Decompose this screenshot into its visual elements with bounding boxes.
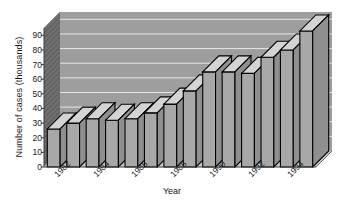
y-tick-label: 30 <box>20 119 42 127</box>
y-tick-label: 20 <box>20 134 42 142</box>
y-tick-label: 40 <box>20 104 42 112</box>
y-tick-label: 0 <box>20 163 42 171</box>
y-axis-tick-labels: 0102030405060708090 <box>20 0 42 203</box>
y-tick-label: 60 <box>20 75 42 83</box>
y-tick-label: 90 <box>20 31 42 39</box>
chart-plot-area <box>0 0 344 203</box>
y-tick-label: 70 <box>20 61 42 69</box>
bar-chart-figure: Number of cases (thousands) Year 0102030… <box>0 0 344 203</box>
y-tick-label: 10 <box>20 148 42 156</box>
y-tick-label: 80 <box>20 46 42 54</box>
x-axis-title: Year <box>0 186 344 196</box>
y-tick-label: 50 <box>20 90 42 98</box>
bar <box>300 15 329 167</box>
